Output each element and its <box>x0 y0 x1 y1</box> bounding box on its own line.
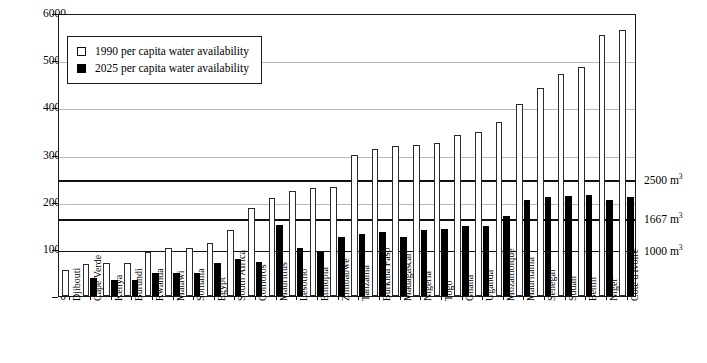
x-axis-label: Malawi <box>176 270 186 301</box>
bar-1990 <box>413 145 420 296</box>
x-axis-label: Burundi <box>134 268 144 301</box>
x-axis-label: Lesotho <box>299 269 309 301</box>
bar-1990 <box>227 230 234 296</box>
bar-1990 <box>124 263 131 296</box>
x-axis-label: Ghana <box>465 275 475 301</box>
x-axis-label: Ethiopia <box>320 267 330 301</box>
x-axis-label: Djibouti <box>72 268 82 301</box>
x-axis-label: Mauritania <box>526 257 536 301</box>
bar-1990 <box>434 143 441 296</box>
bar-1990 <box>165 248 172 296</box>
x-axis-label: Mozambique <box>506 248 516 301</box>
open-square-icon <box>77 47 86 56</box>
threshold-label: 1000 m3 <box>644 244 683 257</box>
bar-1990 <box>289 191 296 296</box>
bar-1990 <box>62 270 69 296</box>
legend-item: 2025 per capita water availability <box>77 60 249 77</box>
x-axis-label: Comoros <box>258 264 268 301</box>
threshold-label: 2500 m3 <box>644 173 683 186</box>
chart-legend: 1990 per capita water availability 2025 … <box>67 36 262 84</box>
x-axis-label: Somalia <box>196 268 206 301</box>
bar-1990 <box>83 264 90 296</box>
bar-1990 <box>372 149 379 296</box>
bar-1990 <box>516 104 523 296</box>
x-axis-label: Egypt <box>217 277 227 301</box>
bar-1990 <box>145 252 152 296</box>
bar-1990 <box>578 67 585 296</box>
x-axis-label: Nigeria <box>423 271 433 301</box>
x-axis-label: Cote d'Ivoire <box>630 249 640 301</box>
bar-1990 <box>599 35 606 296</box>
x-axis-category-labels: DjiboutiCape VerdeKenyaBurundiRwandaMala… <box>58 299 636 363</box>
x-axis-label: Senegal <box>547 269 557 301</box>
filled-square-icon <box>77 64 86 73</box>
legend-item-label: 2025 per capita water availability <box>95 63 249 75</box>
x-axis-label: Benin <box>588 277 598 301</box>
bar-1990 <box>454 135 461 296</box>
bar-1990 <box>392 146 399 296</box>
bar-1990 <box>207 243 214 296</box>
x-axis-label: Cape Verde <box>93 255 103 301</box>
bar-1990 <box>475 132 482 296</box>
x-axis-label: Madagascar <box>403 253 413 301</box>
threshold-label: 1667 m3 <box>644 212 683 225</box>
bar-1990 <box>619 30 626 296</box>
x-axis-label: Niger <box>609 278 619 301</box>
x-axis-label: South Africa <box>237 250 247 301</box>
x-axis-label: Sudan <box>568 276 578 301</box>
x-axis-label: Mauritius <box>279 262 289 301</box>
bar-1990 <box>186 248 193 296</box>
bar-1990 <box>103 263 110 296</box>
legend-item-label: 1990 per capita water availability <box>95 46 249 58</box>
bar-1990 <box>330 187 337 296</box>
water-availability-bar-chart: Cubic Meters 0100020003000400050006000 2… <box>0 0 707 363</box>
x-axis-label: Uganda <box>485 270 495 301</box>
x-axis-label: Zimbabwe <box>341 258 351 301</box>
x-axis-label: Kenya <box>114 275 124 301</box>
y-axis-tick-mark <box>52 297 58 298</box>
x-axis-label: Rwanda <box>155 268 165 301</box>
bar-1990 <box>269 198 276 296</box>
bar-1990 <box>248 208 255 296</box>
legend-item: 1990 per capita water availability <box>77 43 249 60</box>
bar-1990 <box>496 122 503 296</box>
x-axis-label: Tanzania <box>361 265 371 301</box>
bar-1990 <box>537 88 544 296</box>
bar-1990 <box>310 188 317 296</box>
bar-1990 <box>558 74 565 296</box>
x-axis-label: Burkina Faso <box>382 247 392 301</box>
x-axis-label: Togo <box>444 281 454 301</box>
bar-1990 <box>351 155 358 297</box>
